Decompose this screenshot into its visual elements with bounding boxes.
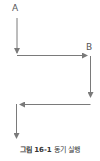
figure-caption: 그림 16-1 동기 실행 [0,144,100,154]
caption-title: 동기 실행 [54,146,80,154]
flow-arrows [0,0,100,161]
caption-number: 그림 16-1 [20,146,52,154]
